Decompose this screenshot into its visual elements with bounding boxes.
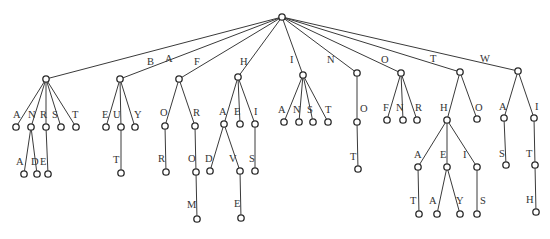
tree-node xyxy=(118,124,124,130)
edge-label: Y xyxy=(456,195,464,206)
edge-label: H xyxy=(440,102,448,113)
tree-edge xyxy=(24,130,30,171)
tree-node xyxy=(34,171,40,177)
edge-label: N xyxy=(293,104,301,115)
tree-edge xyxy=(438,170,447,211)
tree-node xyxy=(238,215,244,221)
tree-node xyxy=(252,168,258,174)
tree-node xyxy=(237,121,243,127)
edge-label: T xyxy=(526,148,533,159)
tree-node xyxy=(457,69,463,75)
tree-node xyxy=(281,119,287,125)
tree-edge xyxy=(402,76,416,117)
edge-label: I xyxy=(535,101,539,112)
tree-node xyxy=(398,70,404,76)
edge-label: T xyxy=(325,104,332,115)
tree-node xyxy=(434,211,440,217)
edge-label: T xyxy=(430,53,437,64)
tree-node xyxy=(354,119,360,125)
tree-edge xyxy=(449,123,476,165)
edge-label: R xyxy=(40,109,47,120)
edge-label: Y xyxy=(134,109,142,120)
tree-edge xyxy=(448,75,459,117)
tree-node xyxy=(132,124,138,130)
tree-edge xyxy=(519,74,533,115)
tree-edge xyxy=(166,82,178,123)
edge-label: I xyxy=(254,106,258,117)
edge-label: I xyxy=(463,149,467,160)
edge-label: N xyxy=(327,54,335,65)
tree-node xyxy=(325,119,331,125)
edge-label: T xyxy=(113,154,120,165)
tree-node xyxy=(193,169,199,175)
edge-label: V xyxy=(229,153,237,164)
tree-node xyxy=(43,76,49,82)
tree-node xyxy=(163,169,169,175)
tree-node xyxy=(45,171,51,177)
tree-edge xyxy=(505,74,517,115)
edge-label: A xyxy=(165,53,173,64)
tree-node xyxy=(474,211,480,217)
edge-label: S xyxy=(499,148,505,159)
tree-node xyxy=(13,124,19,130)
edge-label: O xyxy=(160,107,168,118)
tree-node xyxy=(21,171,27,177)
edge-label: E xyxy=(102,109,108,120)
edge-label: W xyxy=(480,53,490,64)
tree-node xyxy=(414,117,420,123)
edge-label: O xyxy=(360,103,368,114)
tree-node xyxy=(162,123,168,129)
tree-node xyxy=(43,124,49,130)
edge-label: F xyxy=(383,102,389,113)
tree-node xyxy=(237,168,243,174)
tree-node xyxy=(531,115,537,121)
tree-edge xyxy=(534,121,535,162)
tree-node xyxy=(194,216,200,222)
edge-label: S xyxy=(249,153,255,164)
edge-label: B xyxy=(147,56,154,67)
root-node xyxy=(279,14,285,20)
tree-node xyxy=(207,168,213,174)
tree-edge xyxy=(357,125,358,166)
tree-edge xyxy=(180,82,194,123)
edge-label: A xyxy=(13,109,21,120)
tree-node xyxy=(384,117,390,123)
tree-node xyxy=(176,76,182,82)
tree-node xyxy=(474,116,480,122)
tree-edge xyxy=(239,80,254,121)
tree-node xyxy=(515,68,521,74)
tree-edge xyxy=(418,170,419,211)
edge-labels: ABFHINOTWANRSTADEEUYTORROMAEIDVSEANSTOTF… xyxy=(13,53,539,210)
tree-node xyxy=(58,124,64,130)
edge-label: O xyxy=(475,102,483,113)
edge-label: A xyxy=(278,104,286,115)
tree-node xyxy=(355,166,361,172)
edge-label: S xyxy=(480,195,486,206)
edge-label: E xyxy=(440,149,446,160)
tree-edge xyxy=(535,168,536,209)
edge-label: N xyxy=(396,102,404,113)
edge-label: M xyxy=(187,199,197,210)
edge-label: U xyxy=(113,109,121,120)
edge-label: A xyxy=(429,195,437,206)
tree-node xyxy=(444,117,450,123)
tree-node xyxy=(533,209,539,215)
tree-edge xyxy=(461,75,476,116)
edge-label: A xyxy=(499,101,507,112)
tree-node xyxy=(300,72,306,78)
tree-node xyxy=(221,121,227,127)
edge-label: I xyxy=(290,54,294,65)
edge-label: R xyxy=(415,102,422,113)
tree-node xyxy=(192,123,198,129)
edge-label: H xyxy=(526,194,534,205)
tree-node xyxy=(117,76,123,82)
edge-label: A xyxy=(414,149,422,160)
edge-label: T xyxy=(410,195,417,206)
tree-edge xyxy=(211,127,223,168)
edge-label: A xyxy=(219,106,227,117)
tree-node xyxy=(457,211,463,217)
tree-node xyxy=(296,119,302,125)
edge-label: E xyxy=(40,156,46,167)
edge-label: D xyxy=(31,156,39,167)
tree-node xyxy=(118,170,124,176)
